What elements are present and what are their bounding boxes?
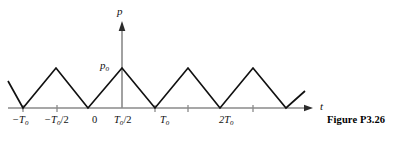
tick-label-2To-sub: o (230, 119, 234, 127)
figure-caption: Figure P3.26 (327, 114, 385, 125)
x-axis-arrowhead (304, 105, 313, 112)
tick-label-To-half: To/2 (114, 115, 132, 127)
tick-label-neg-To-half-tail: /2 (61, 114, 69, 125)
tick-label-neg-To-half-main: −T (44, 114, 57, 125)
tick-label-neg-To: −To (12, 115, 29, 127)
tick-label-To-sub: o (166, 119, 170, 127)
y-axis-label: p (117, 6, 123, 17)
tick-label-zero-main: 0 (92, 114, 97, 125)
tick-label-To: To (160, 115, 169, 127)
x-axis-label: t (320, 101, 323, 112)
tick-label-neg-To-half: −To/2 (44, 115, 69, 127)
triangular-waveform (8, 68, 305, 108)
tick-label-To-half-tail: /2 (123, 114, 131, 125)
y-axis-arrowhead (119, 21, 126, 31)
tick-label-neg-To-main: −T (12, 114, 25, 125)
figure-container: p t po −To −To/2 0 To/2 To 2To Figure P3… (0, 0, 397, 142)
tick-label-2To-main: 2T (219, 114, 230, 125)
amplitude-label-po: po (100, 60, 109, 72)
tick-label-2To: 2To (219, 115, 234, 127)
amplitude-label-subscript: o (106, 64, 110, 73)
tick-label-zero: 0 (92, 115, 97, 126)
tick-label-neg-To-sub: o (25, 119, 29, 127)
